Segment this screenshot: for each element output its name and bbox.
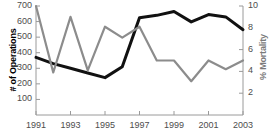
- x-axis-tick-label: 1993: [56, 120, 86, 130]
- y-axis-left-tick-label: 100: [8, 93, 32, 103]
- x-axis-tick-label: 1999: [159, 120, 189, 130]
- y-axis-left-tick-label: 600: [8, 16, 32, 26]
- y-axis-right-tick-label: 4: [248, 65, 264, 75]
- y-axis-right-tick-label: 8: [248, 22, 264, 32]
- y-axis-right-tick-label: 10: [248, 0, 264, 10]
- x-axis-tick-label: 1991: [21, 120, 51, 130]
- chart-container: # of Operations % Mortality 100200300400…: [0, 0, 273, 134]
- series-line-operations: [36, 11, 243, 77]
- y-axis-left-tick-label: 700: [8, 0, 32, 10]
- x-axis-tick-label: 2001: [194, 120, 224, 130]
- y-axis-left-tick-label: 400: [8, 47, 32, 57]
- x-axis-tick-label: 1997: [125, 120, 155, 130]
- x-axis-tick-label: 2003: [228, 120, 258, 130]
- y-axis-right-tick-label: 6: [248, 44, 264, 54]
- plot-area: [0, 0, 273, 134]
- y-axis-left-tick-label: 500: [8, 31, 32, 41]
- y-axis-right-tick-label: 2: [248, 87, 264, 97]
- y-axis-left-tick-label: 300: [8, 62, 32, 72]
- x-axis-tick-label: 1995: [90, 120, 120, 130]
- y-axis-left-tick-label: 200: [8, 78, 32, 88]
